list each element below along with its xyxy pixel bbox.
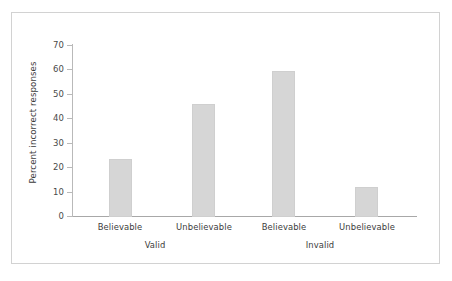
y-tick-label-wrap-40: 40 bbox=[40, 114, 64, 123]
y-tick-40 bbox=[67, 118, 73, 119]
y-tick-label-70: 70 bbox=[42, 41, 64, 50]
x-group-label-valid: Valid bbox=[120, 240, 190, 250]
y-tick-label-10: 10 bbox=[42, 188, 64, 197]
y-tick-label-40: 40 bbox=[42, 114, 64, 123]
y-tick-label-wrap-60: 60 bbox=[40, 65, 64, 74]
bar-invalid-unbelievable bbox=[355, 187, 378, 217]
x-group-label-invalid: Invalid bbox=[285, 240, 355, 250]
plot-area: Percent incorrect responses 70 60 50 40 … bbox=[0, 0, 452, 281]
y-tick-label-30: 30 bbox=[42, 139, 64, 148]
y-tick-label-wrap-50: 50 bbox=[40, 90, 64, 99]
y-tick-label-50: 50 bbox=[42, 90, 64, 99]
figure-root: Percent incorrect responses 70 60 50 40 … bbox=[0, 0, 452, 281]
y-tick-label-wrap-70: 70 bbox=[40, 41, 64, 50]
bar-valid-believable bbox=[109, 159, 132, 217]
y-tick-70 bbox=[67, 45, 73, 46]
bar-valid-unbelievable bbox=[192, 104, 215, 217]
y-tick-50 bbox=[67, 94, 73, 95]
y-tick-10 bbox=[67, 192, 73, 193]
y-tick-label-wrap-30: 30 bbox=[40, 139, 64, 148]
bar-invalid-believable bbox=[272, 71, 295, 217]
y-tick-label-60: 60 bbox=[42, 65, 64, 74]
x-label-invalid-unbelievable: Unbelievable bbox=[323, 222, 411, 232]
y-tick-60 bbox=[67, 69, 73, 70]
x-label-valid-unbelievable: Unbelievable bbox=[160, 222, 248, 232]
y-tick-label-wrap-0: 0 bbox=[40, 212, 64, 221]
y-tick-label-wrap-20: 20 bbox=[40, 163, 64, 172]
y-tick-label-20: 20 bbox=[42, 163, 64, 172]
y-tick-label-wrap-10: 10 bbox=[40, 188, 64, 197]
y-tick-30 bbox=[67, 143, 73, 144]
x-label-invalid-believable: Believable bbox=[244, 222, 324, 232]
y-tick-0 bbox=[67, 216, 73, 217]
x-label-valid-believable: Believable bbox=[80, 222, 160, 232]
y-axis-title: Percent incorrect responses bbox=[29, 53, 38, 193]
y-tick-20 bbox=[67, 167, 73, 168]
y-tick-label-0: 0 bbox=[42, 212, 64, 221]
